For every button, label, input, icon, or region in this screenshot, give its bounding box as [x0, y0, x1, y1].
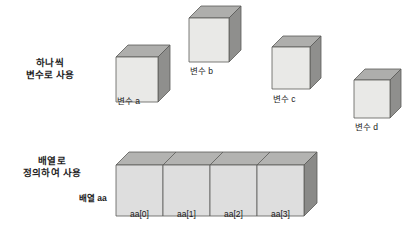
array-cell-label-1: aa[1] [163, 209, 210, 219]
cube-label-d: 변수 d [355, 122, 378, 132]
cube-d-front-face [354, 80, 390, 118]
isometric-shapes-layer [0, 0, 414, 230]
array-cell-label-2: aa[2] [210, 209, 257, 219]
section-label-array: 배열로 정의하여 사용 [0, 155, 112, 179]
cube-c [272, 36, 321, 89]
array-cell-label-3: aa[3] [257, 209, 304, 219]
cube-b-front-face [189, 18, 229, 62]
array-cell-label-0: aa[0] [116, 209, 163, 219]
cube-label-c: 변수 c [273, 94, 296, 104]
cube-label-b: 변수 b [190, 66, 213, 76]
cube-b [189, 6, 241, 62]
cube-a [116, 45, 170, 102]
array-name-label: 배열 aa [79, 193, 107, 203]
cube-label-a: 변수 a [117, 96, 140, 106]
section-label-individual: 하나씩 변수로 사용 [0, 57, 110, 81]
diagram-canvas: 하나씩 변수로 사용 배열로 정의하여 사용 변수 a 변수 b 변수 c 변수… [0, 0, 414, 230]
section-label-array-line2: 정의하여 사용 [0, 167, 112, 179]
section-label-individual-line1: 하나씩 [0, 57, 110, 69]
section-label-individual-line2: 변수로 사용 [0, 69, 110, 81]
section-label-array-line1: 배열로 [0, 155, 112, 167]
array-bar-group [116, 152, 317, 216]
variable-cubes-group [116, 6, 401, 118]
cube-c-front-face [272, 47, 310, 89]
cube-d [354, 69, 401, 118]
